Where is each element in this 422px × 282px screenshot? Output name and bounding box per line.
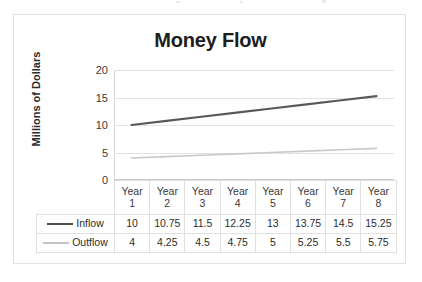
column-header-line: Year — [361, 186, 395, 197]
table-header-row: Year1Year2Year3Year4Year5Year6Year7Year8 — [37, 181, 397, 215]
table-column-header: Year6 — [290, 181, 325, 215]
y-axis-tick-label: 10 — [96, 119, 108, 131]
plot-area: 05101520 — [114, 70, 394, 180]
y-axis-tick-label: 5 — [102, 147, 108, 159]
scan-artifact — [322, 0, 326, 3]
table-value-cell: 13.75 — [290, 215, 325, 234]
table-column-header: Year8 — [361, 181, 396, 215]
table-value-cell: 4.75 — [220, 234, 255, 253]
table-column-header: Year4 — [220, 181, 255, 215]
column-header-line: 1 — [115, 198, 149, 209]
table-column-header: Year2 — [150, 181, 185, 215]
column-header-line: 6 — [291, 198, 325, 209]
chart-data-table: Year1Year2Year3Year4Year5Year6Year7Year8… — [36, 180, 397, 253]
scan-artifact — [176, 1, 180, 3]
column-header-line: Year — [326, 186, 360, 197]
table-column-header: Year7 — [326, 181, 361, 215]
legend-label: Outflow — [72, 236, 108, 248]
column-header-line: 5 — [256, 198, 290, 209]
table-row: Inflow1010.7511.512.251313.7514.515.25 — [37, 215, 397, 234]
column-header-line: 8 — [361, 198, 395, 209]
column-header-line: Year — [150, 186, 184, 197]
column-header-line: Year — [221, 186, 255, 197]
table-value-cell: 10 — [115, 215, 150, 234]
y-axis-title: Millions of Dollars — [30, 44, 42, 154]
table-row: Outflow44.254.54.7555.255.55.75 — [37, 234, 397, 253]
table-value-cell: 11.5 — [185, 215, 220, 234]
table-corner-cell — [37, 181, 115, 215]
series-lines — [114, 70, 394, 180]
table-value-cell: 12.25 — [220, 215, 255, 234]
table-value-cell: 5 — [255, 234, 290, 253]
table-value-cell: 15.25 — [361, 215, 396, 234]
scanned-page: Money Flow Millions of Dollars 05101520 … — [0, 0, 422, 282]
table-column-header: Year3 — [185, 181, 220, 215]
table-value-cell: 5.5 — [326, 234, 361, 253]
column-header-line: Year — [256, 186, 290, 197]
table-value-cell: 5.25 — [290, 234, 325, 253]
series-line-inflow — [132, 96, 377, 125]
y-axis-tick-label: 15 — [96, 92, 108, 104]
column-header-line: Year — [185, 186, 219, 197]
chart-container: Money Flow Millions of Dollars 05101520 … — [13, 14, 406, 264]
column-header-line: Year — [115, 186, 149, 197]
table-column-header: Year5 — [255, 181, 290, 215]
y-axis-tick-label: 20 — [96, 64, 108, 76]
table-value-cell: 5.75 — [361, 234, 396, 253]
series-line-outflow — [132, 148, 377, 158]
legend-entry-outflow: Outflow — [37, 234, 115, 253]
column-header-line: 3 — [185, 198, 219, 209]
table-value-cell: 13 — [255, 215, 290, 234]
column-header-line: 4 — [221, 198, 255, 209]
legend-line-swatch-icon — [47, 223, 73, 225]
column-header-line: 7 — [326, 198, 360, 209]
legend-line-swatch-icon — [43, 242, 69, 244]
legend-label: Inflow — [76, 217, 103, 229]
scan-artifact — [240, 1, 243, 3]
table-value-cell: 4.5 — [185, 234, 220, 253]
table-column-header: Year1 — [115, 181, 150, 215]
table-value-cell: 10.75 — [150, 215, 185, 234]
table-value-cell: 4.25 — [150, 234, 185, 253]
chart-title: Money Flow — [14, 29, 407, 52]
legend-entry-inflow: Inflow — [37, 215, 115, 234]
column-header-line: Year — [291, 186, 325, 197]
table-value-cell: 14.5 — [326, 215, 361, 234]
table-value-cell: 4 — [115, 234, 150, 253]
column-header-line: 2 — [150, 198, 184, 209]
